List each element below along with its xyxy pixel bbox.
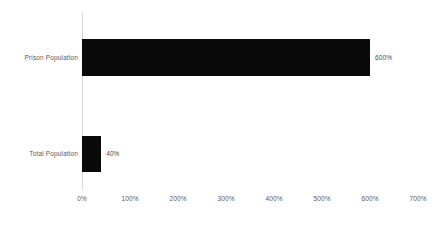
x-tick-label-700: 700%	[409, 196, 426, 203]
plot-area	[82, 13, 418, 190]
bar-value-label-prison-population: 600%	[375, 55, 392, 62]
bar-value-label-total-population: 40%	[106, 151, 119, 158]
x-tick-label-500: 500%	[313, 196, 330, 203]
x-tick-label-0: 0%	[77, 196, 87, 203]
x-tick-label-600: 600%	[361, 196, 378, 203]
category-label-total-population: Total Population	[6, 151, 78, 158]
bar-total-population	[82, 136, 101, 172]
category-label-prison-population: Prison Population	[6, 55, 78, 62]
bar-prison-population	[82, 39, 370, 76]
x-tick-label-300: 300%	[217, 196, 234, 203]
x-tick-label-400: 400%	[265, 196, 282, 203]
x-tick-label-200: 200%	[169, 196, 186, 203]
x-tick-label-100: 100%	[121, 196, 138, 203]
bar-chart: Prison Population Total Population 600% …	[0, 0, 438, 226]
